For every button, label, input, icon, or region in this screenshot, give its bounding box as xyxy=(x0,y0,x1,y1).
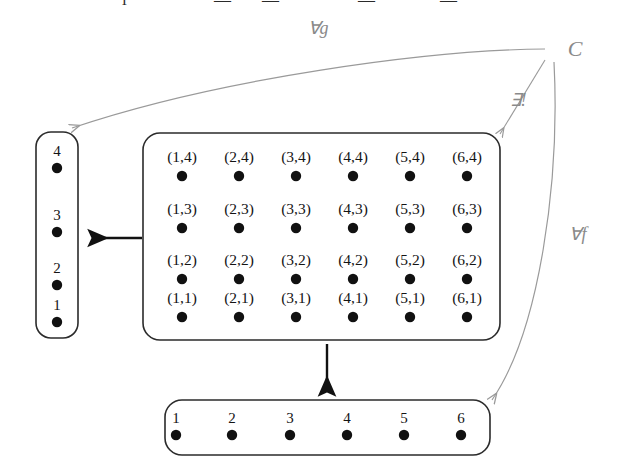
product-cell-0-1: (2,4) xyxy=(224,148,254,166)
bottom-set-label-2: 3 xyxy=(286,410,294,426)
product-cell-2-4: (5,2) xyxy=(395,251,425,269)
arrow-label-exists-unique: ∃! xyxy=(510,90,527,110)
product-dot-2-5 xyxy=(462,274,472,284)
bottom-set-dot-4 xyxy=(399,430,409,440)
product-cell-2-2: (3,2) xyxy=(281,251,311,269)
arrow-label-forall-f: ∀f xyxy=(569,224,589,244)
product-cell-0-0: (1,4) xyxy=(167,148,197,166)
bottom-set[interactable]: 1 2 3 4 5 6 xyxy=(165,400,490,455)
product-cell-0-2: (3,4) xyxy=(281,148,311,166)
product-cell-1-1: (2,3) xyxy=(224,200,254,218)
bottom-set-label-3: 4 xyxy=(343,410,351,426)
bottom-set-label-1: 2 xyxy=(228,410,236,426)
product-dot-1-0 xyxy=(177,223,187,233)
product-cell-2-5: (6,2) xyxy=(452,251,482,269)
product-cell-3-4: (5,1) xyxy=(395,289,425,307)
product-set[interactable]: (1,4) (2,4) (3,4) (4,4) (5,4) (6,4) (1,3… xyxy=(143,133,500,340)
bottom-set-label-5: 6 xyxy=(457,410,465,426)
product-cell-2-3: (4,2) xyxy=(338,251,368,269)
product-cell-0-4: (5,4) xyxy=(395,148,425,166)
left-set-label-2: 2 xyxy=(53,260,61,276)
bottom-set-dot-3 xyxy=(342,430,352,440)
product-cell-1-3: (4,3) xyxy=(338,200,368,218)
bottom-set-dot-1 xyxy=(227,430,237,440)
product-dot-3-0 xyxy=(177,312,187,322)
product-dot-1-3 xyxy=(348,223,358,233)
product-dot-0-0 xyxy=(177,171,187,181)
bottom-set-label-4: 5 xyxy=(400,410,408,426)
left-set-dot-3 xyxy=(52,317,62,327)
product-dot-2-4 xyxy=(405,274,415,284)
product-cell-1-2: (3,3) xyxy=(281,200,311,218)
product-cell-1-4: (5,3) xyxy=(395,200,425,218)
diagram-svg: ∀g ∃! ∀f C 4 3 2 xyxy=(0,0,619,470)
bottom-set-dot-2 xyxy=(285,430,295,440)
product-dot-3-1 xyxy=(234,312,244,322)
product-cell-0-5: (6,4) xyxy=(452,148,482,166)
product-dot-2-3 xyxy=(348,274,358,284)
product-dot-2-0 xyxy=(177,274,187,284)
product-dot-3-2 xyxy=(291,312,301,322)
product-dot-0-2 xyxy=(291,171,301,181)
product-dot-3-3 xyxy=(348,312,358,322)
product-cell-3-3: (4,1) xyxy=(338,289,368,307)
product-cell-3-1: (2,1) xyxy=(224,289,254,307)
product-cell-0-3: (4,4) xyxy=(338,148,368,166)
product-dot-3-4 xyxy=(405,312,415,322)
left-set[interactable]: 4 3 2 1 xyxy=(36,132,78,338)
product-dot-0-5 xyxy=(462,171,472,181)
left-set-label-0: 4 xyxy=(53,143,61,159)
arrow-exists-unique: ∃! xyxy=(500,60,545,134)
product-dot-1-5 xyxy=(462,223,472,233)
product-dot-0-3 xyxy=(348,171,358,181)
product-dot-1-4 xyxy=(405,223,415,233)
arrow-label-forall-g: ∀g xyxy=(308,18,329,38)
arrow-forall-f: ∀f xyxy=(492,62,589,400)
product-cell-3-5: (6,1) xyxy=(452,289,482,307)
left-set-label-3: 1 xyxy=(53,297,61,313)
product-cell-1-5: (6,3) xyxy=(452,200,482,218)
product-cell-2-0: (1,2) xyxy=(167,251,197,269)
product-dot-3-5 xyxy=(462,312,472,322)
figure-canvas: ı — — — — ∀g ∃! ∀f C xyxy=(0,0,619,470)
product-dot-2-2 xyxy=(291,274,301,284)
product-cell-2-1: (2,2) xyxy=(224,251,254,269)
left-set-dot-1 xyxy=(52,227,62,237)
product-cell-1-0: (1,3) xyxy=(167,200,197,218)
object-label-C: C xyxy=(568,36,583,61)
product-dot-1-1 xyxy=(234,223,244,233)
product-cell-3-0: (1,1) xyxy=(167,289,197,307)
product-dot-2-1 xyxy=(234,274,244,284)
product-dot-0-4 xyxy=(405,171,415,181)
bottom-set-dot-0 xyxy=(171,430,181,440)
bottom-set-outline xyxy=(165,400,490,455)
product-dot-0-1 xyxy=(234,171,244,181)
left-set-dot-2 xyxy=(52,280,62,290)
left-set-dot-0 xyxy=(52,163,62,173)
left-set-label-1: 3 xyxy=(53,207,61,223)
product-dot-1-2 xyxy=(291,223,301,233)
product-cell-3-2: (3,1) xyxy=(281,289,311,307)
bottom-set-dot-5 xyxy=(456,430,466,440)
arrow-forall-g: ∀g xyxy=(72,18,545,128)
bottom-set-label-0: 1 xyxy=(172,410,180,426)
